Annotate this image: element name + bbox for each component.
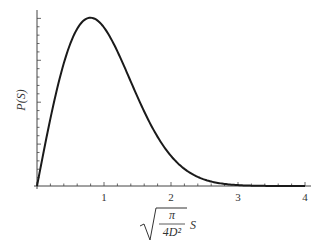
- tick-labels: 1234: [101, 191, 308, 203]
- axes: [34, 10, 311, 189]
- x-label-denominator: 4D²: [163, 225, 182, 239]
- y-axis-label: P(S): [14, 89, 28, 111]
- x-axis-label: π 4D² S: [140, 208, 196, 240]
- x-label-suffix: S: [190, 218, 196, 232]
- x-tick-label: 4: [302, 191, 308, 203]
- x-label-numerator: π: [169, 208, 176, 222]
- series-line-p-s: [37, 18, 305, 186]
- ticks: [37, 18, 305, 186]
- x-tick-label: 1: [101, 191, 107, 203]
- x-tick-label: 3: [235, 191, 241, 203]
- chart: 1234 P(S) π 4D² S: [0, 0, 324, 252]
- x-tick-label: 2: [168, 191, 174, 203]
